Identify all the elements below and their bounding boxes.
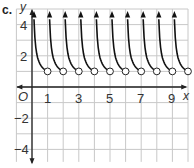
open-circle [75, 68, 82, 75]
x-tick-5: 5 [106, 92, 113, 105]
y-tick-neg2: −2 [14, 112, 29, 125]
y-tick-4: 4 [20, 19, 27, 32]
graph [0, 0, 194, 168]
open-circle [138, 68, 145, 75]
x-tick-3: 3 [75, 92, 82, 105]
y-tick-neg4: −4 [14, 143, 29, 156]
open-circle [185, 68, 192, 75]
open-circle [91, 68, 98, 75]
curve-branch [159, 19, 173, 71]
open-circle [107, 68, 114, 75]
open-circle [169, 68, 176, 75]
x-tick-1: 1 [44, 92, 51, 105]
curve-branch [143, 19, 157, 71]
grid-lines [16, 9, 188, 162]
curve-branch [174, 19, 188, 71]
y-tick-2: 2 [20, 50, 27, 63]
curve-branch [112, 19, 126, 71]
curve-branch [81, 19, 95, 71]
x-axis-label: x [183, 90, 189, 102]
curve-branch [34, 19, 48, 71]
open-circle [153, 68, 160, 75]
open-circle [44, 68, 51, 75]
axes [16, 9, 187, 164]
curve-branch [128, 19, 142, 71]
curve-branch [96, 19, 110, 71]
x-tick-9: 9 [168, 92, 175, 105]
curve-branch [65, 19, 79, 71]
curve-branch [50, 19, 64, 71]
origin-label: O [18, 90, 28, 103]
y-axis-label: y [20, 1, 26, 13]
y-axis-arrow-down-icon [30, 158, 35, 164]
open-circle [122, 68, 129, 75]
open-circle [60, 68, 67, 75]
x-tick-7: 7 [137, 92, 144, 105]
